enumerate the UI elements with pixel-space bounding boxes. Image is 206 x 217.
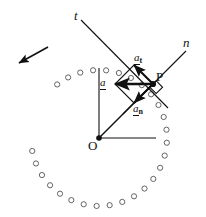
vector-a-label: a: [100, 77, 106, 90]
particle-marker: [131, 194, 136, 199]
particle-marker: [66, 75, 71, 80]
vector-at-base: a: [134, 52, 140, 65]
particle-marker: [158, 165, 163, 170]
particle-marker: [162, 153, 167, 158]
particle-marker: [69, 198, 74, 203]
vector-a-base: a: [100, 77, 106, 90]
particle-marker: [47, 183, 52, 188]
particle-marker: [116, 70, 121, 75]
acceleration-decomposition-figure: t n P O a at an: [0, 0, 206, 217]
point-p-label: P: [156, 70, 163, 83]
particle-marker: [142, 186, 147, 191]
particle-marker: [55, 82, 60, 87]
particle-marker: [81, 202, 86, 207]
tangent-axis-label: t: [74, 9, 78, 22]
particle-marker: [104, 68, 109, 73]
vector-at-subscript: t: [140, 56, 143, 65]
particle-marker: [94, 203, 99, 208]
particle-marker: [156, 102, 161, 107]
vector-an-label: an: [133, 103, 143, 116]
particle-marker: [78, 70, 83, 75]
particle-marker: [30, 148, 35, 153]
particle-marker: [151, 176, 156, 181]
particle-marker: [164, 140, 169, 145]
particle-marker: [57, 191, 62, 196]
motion-direction-arrow: [19, 47, 48, 63]
normal-axis-label: n: [183, 36, 190, 49]
particle-marker: [90, 68, 95, 73]
vector-an-base: a: [133, 103, 139, 116]
particle-marker: [107, 203, 112, 208]
particle-marker: [164, 127, 169, 132]
vector-at-label: at: [134, 52, 142, 65]
acceleration-vector-at: [134, 65, 153, 84]
tangent-axis-line: [81, 20, 168, 108]
particle-marker: [33, 161, 38, 166]
point-o-label: O: [88, 139, 97, 152]
figure-canvas: [0, 0, 206, 217]
vector-an-subscript: n: [139, 107, 143, 116]
particle-marker: [128, 75, 133, 80]
particle-marker: [161, 114, 166, 119]
particle-marker: [120, 199, 125, 204]
particle-marker: [39, 172, 44, 177]
